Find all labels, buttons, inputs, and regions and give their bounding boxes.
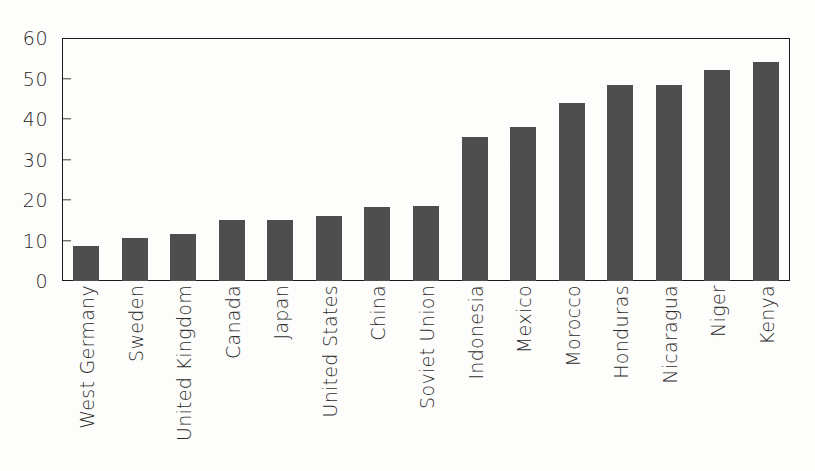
bar	[559, 103, 585, 281]
x-axis-label-slot: Japan	[256, 285, 305, 460]
x-axis-label-slot: Morocco	[547, 285, 596, 460]
x-axis-label-slot: United States	[305, 285, 354, 460]
bar	[753, 62, 779, 281]
y-axis-labels: 6050403020100	[0, 38, 56, 281]
bar	[364, 207, 390, 281]
x-axis-category-label: Mexico	[513, 285, 535, 353]
bar	[219, 220, 245, 281]
x-axis-label-slot: Nicaragua	[644, 285, 693, 460]
x-axis-category-label: Nicaragua	[659, 285, 681, 384]
y-axis-tick-label: 10	[23, 230, 48, 252]
y-axis-tick-label: 30	[23, 149, 48, 171]
x-axis-category-label: Morocco	[562, 285, 584, 367]
x-axis-label-slot: Mexico	[499, 285, 548, 460]
x-axis-category-label: Kenya	[756, 285, 778, 345]
x-axis-category-label: United States	[319, 285, 341, 418]
bars-layer	[62, 38, 790, 281]
x-axis-category-label: Soviet Union	[416, 285, 438, 409]
x-axis-labels: West GermanySwedenUnited KingdomCanadaJa…	[62, 285, 790, 465]
bar	[413, 206, 439, 281]
x-axis-category-label: China	[367, 285, 389, 341]
bar	[122, 238, 148, 281]
x-axis-category-label: Canada	[222, 285, 244, 359]
bar	[510, 127, 536, 281]
x-axis-category-label: West Germany	[76, 285, 98, 429]
bar	[656, 85, 682, 281]
x-axis-label-slot: Sweden	[111, 285, 160, 460]
x-axis-label-slot: West Germany	[62, 285, 111, 460]
y-axis-tick-label: 0	[35, 270, 48, 292]
x-axis-category-label: Niger	[707, 285, 729, 337]
x-axis-label-slot: Soviet Union	[402, 285, 451, 460]
bar	[170, 234, 196, 281]
bar	[267, 220, 293, 281]
y-axis-tick-label: 40	[23, 108, 48, 130]
x-axis-category-label: Sweden	[125, 285, 147, 362]
x-axis-label-slot: United Kingdom	[159, 285, 208, 460]
bar	[607, 85, 633, 281]
y-axis-tick-label: 60	[23, 27, 48, 49]
x-axis-category-label: United Kingdom	[173, 285, 195, 441]
x-axis-label-slot: China	[353, 285, 402, 460]
bar	[73, 246, 99, 281]
chart-page: 6050403020100 West GermanySwedenUnited K…	[0, 0, 815, 471]
x-axis-category-label: Honduras	[610, 285, 632, 379]
x-axis-label-slot: Indonesia	[450, 285, 499, 460]
x-axis-label-slot: Kenya	[741, 285, 790, 460]
x-axis-label-slot: Honduras	[596, 285, 645, 460]
bar	[316, 216, 342, 281]
bar	[704, 70, 730, 281]
x-axis-label-slot: Canada	[208, 285, 257, 460]
y-axis-tick-label: 20	[23, 189, 48, 211]
bar	[462, 137, 488, 281]
x-axis-category-label: Japan	[270, 285, 292, 340]
x-axis-label-slot: Niger	[693, 285, 742, 460]
x-axis-category-label: Indonesia	[465, 285, 487, 380]
y-axis-tick-label: 50	[23, 68, 48, 90]
